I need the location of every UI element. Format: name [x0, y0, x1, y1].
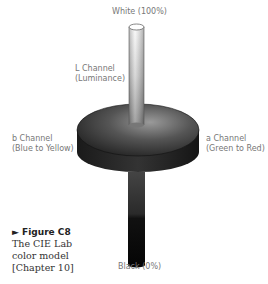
l-channel-label: L Channel (Luminance): [75, 64, 125, 84]
a-channel-title: a Channel: [206, 134, 265, 144]
a-channel-label: a Channel (Green to Red): [206, 134, 265, 154]
l-channel-title: L Channel: [75, 64, 125, 74]
b-channel-desc: (Blue to Yellow): [12, 144, 74, 154]
caption-line-2: color model: [12, 250, 74, 262]
upper-cylinder: [129, 24, 144, 128]
b-channel-title: b Channel: [12, 134, 74, 144]
lower-cylinder: [128, 172, 145, 268]
b-channel-label: b Channel (Blue to Yellow): [12, 134, 74, 154]
l-channel-desc: (Luminance): [75, 74, 125, 84]
black-label: Black (0%): [118, 262, 161, 272]
figure-label: Figure C8: [22, 227, 71, 237]
caption-line-3: [Chapter 10]: [12, 262, 74, 274]
white-label: White (100%): [112, 7, 167, 17]
triangle-marker-icon: ►: [12, 227, 19, 237]
caption-line-1: The CIE Lab: [12, 238, 74, 250]
figure-number: ► Figure C8: [12, 227, 74, 238]
a-channel-desc: (Green to Red): [206, 144, 265, 154]
figure-caption: ► Figure C8 The CIE Lab color model [Cha…: [12, 227, 74, 274]
